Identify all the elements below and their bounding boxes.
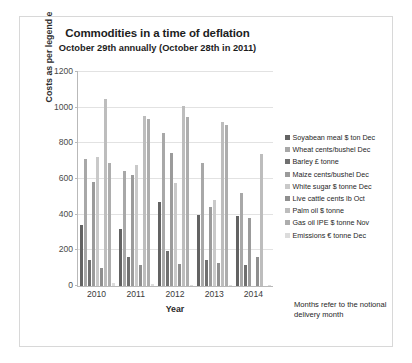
legend-swatch-icon [285, 135, 290, 140]
bar-group [234, 72, 273, 286]
y-axis-tick-label: 600 [59, 173, 73, 183]
legend-item: Gas oil IPE $ tonne Nov [285, 218, 395, 227]
y-axis-title: Costs as per legend e [44, 0, 54, 117]
chart-legend: Soyabean meal $ ton DecWheat cents/bushe… [285, 133, 395, 243]
bar [186, 117, 189, 286]
bar [96, 157, 99, 286]
chart-card: Commodities in a time of deflation Octob… [19, 16, 393, 347]
legend-item: White sugar $ tonne Dec [285, 182, 395, 191]
bar [197, 215, 200, 286]
bar [80, 225, 83, 286]
x-axis-title: Year [77, 304, 273, 314]
bar [205, 260, 208, 286]
bar-group [117, 72, 156, 286]
bar [268, 285, 271, 286]
bar-group [78, 72, 117, 286]
legend-swatch-icon [285, 220, 290, 225]
bar [256, 257, 259, 286]
legend-swatch-icon [285, 233, 290, 238]
plot-area: 020040060080010001200 [77, 72, 273, 287]
legend-item: Emissions € tonne Dec [285, 231, 395, 240]
bar [151, 284, 154, 286]
bar [225, 125, 228, 286]
y-axis-tick-label: 800 [59, 137, 73, 147]
legend-swatch-icon [285, 196, 290, 201]
bar [88, 260, 91, 286]
legend-label: Wheat cents/bushel Dec [293, 145, 371, 154]
bar [240, 193, 243, 286]
legend-label: White sugar $ tonne Dec [293, 182, 372, 191]
bar [100, 268, 103, 286]
bar [190, 285, 193, 286]
chart-subtitle: October 29th annually (October 28th in 2… [20, 43, 295, 53]
bar [260, 154, 263, 286]
bar [84, 159, 87, 287]
legend-swatch-icon [285, 172, 290, 177]
bar [236, 216, 239, 286]
bar-group [195, 72, 234, 286]
legend-label: Palm oil $ tonne [293, 206, 345, 215]
legend-item: Live cattle cents lb Oct [285, 194, 395, 203]
legend-item: Wheat cents/bushel Dec [285, 145, 395, 154]
x-axis-tick-label: 2011 [116, 289, 155, 299]
x-axis-tick-label: 2012 [155, 289, 194, 299]
y-axis-tick-label: 200 [59, 244, 73, 254]
bar [162, 133, 165, 286]
y-axis-tick-label: 1000 [54, 102, 73, 112]
legend-swatch-icon [285, 159, 290, 164]
legend-swatch-icon [285, 184, 290, 189]
bar [201, 163, 204, 286]
y-axis-tick-label: 400 [59, 209, 73, 219]
bar [92, 182, 95, 286]
bar [217, 263, 220, 286]
bar [166, 251, 169, 286]
bar [248, 218, 251, 286]
bar [112, 283, 115, 286]
x-axis-tick-labels: 20102011201220132014 [77, 289, 273, 299]
bar [158, 202, 161, 286]
x-axis-tick-label: 2013 [195, 289, 234, 299]
bar [139, 265, 142, 286]
legend-label: Barley £ tonne [293, 157, 339, 166]
legend-swatch-icon [285, 208, 290, 213]
bar [229, 285, 232, 286]
bar [170, 153, 173, 286]
legend-label: Gas oil IPE $ tonne Nov [293, 218, 370, 227]
legend-item: Soyabean meal $ ton Dec [285, 133, 395, 142]
bar [143, 116, 146, 286]
bar-groups [78, 72, 273, 286]
legend-item: Maize cents/bushel Dec [285, 170, 395, 179]
legend-label: Soyabean meal $ ton Dec [293, 133, 376, 142]
bar [221, 122, 224, 286]
x-axis-tick-label: 2010 [77, 289, 116, 299]
bar [182, 106, 185, 286]
y-axis-tick-label: 0 [68, 280, 73, 290]
legend-item: Palm oil $ tonne [285, 206, 395, 215]
legend-label: Emissions € tonne Dec [293, 231, 367, 240]
bar [213, 200, 216, 286]
legend-item: Barley £ tonne [285, 157, 395, 166]
bar [119, 229, 122, 286]
bar [209, 207, 212, 286]
legend-label: Live cattle cents lb Oct [293, 194, 365, 203]
x-axis-tick-label: 2014 [234, 289, 273, 299]
bar-group [156, 72, 195, 286]
bar [244, 265, 247, 286]
bar [104, 99, 107, 286]
legend-swatch-icon [285, 147, 290, 152]
bar [123, 171, 126, 286]
chart-title: Commodities in a time of deflation [20, 27, 295, 39]
bar [127, 257, 130, 286]
bar [135, 165, 138, 286]
bar [108, 163, 111, 286]
bar [174, 183, 177, 286]
chart-note: Months refer to the notional delivery mo… [294, 300, 390, 320]
bar [178, 264, 181, 286]
legend-label: Maize cents/bushel Dec [293, 170, 369, 179]
bar [131, 175, 134, 286]
bar [147, 119, 150, 286]
y-axis-tick-label: 1200 [54, 66, 73, 76]
